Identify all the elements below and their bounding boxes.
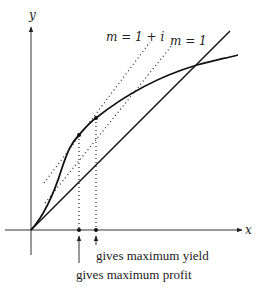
yield-curve	[31, 55, 238, 230]
x-point-max-profit	[77, 228, 81, 232]
straight-line-cost	[31, 31, 230, 230]
label-m-1-plus-i: m = 1 + i	[106, 30, 164, 44]
tangent-point-profit	[77, 133, 81, 137]
x-axis-label: x	[245, 223, 252, 237]
caption-max-profit: gives maximum profit	[76, 267, 192, 283]
y-axis-label: y	[28, 8, 36, 22]
tangent-m-1-plus-i	[44, 42, 150, 183]
x-point-max-yield	[94, 228, 98, 232]
label-m-1: m = 1	[170, 34, 207, 48]
tangent-point-yield	[94, 116, 98, 120]
caption-max-yield: gives maximum yield	[96, 248, 209, 264]
tangent-m-1	[45, 44, 173, 203]
